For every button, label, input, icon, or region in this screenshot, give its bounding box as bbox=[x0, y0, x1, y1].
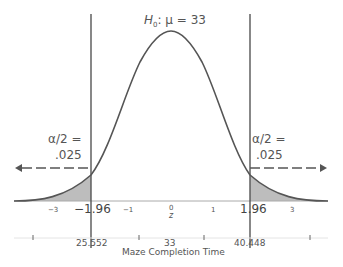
right-alpha-label: α/2 = bbox=[252, 133, 285, 145]
left-alpha-value: .025 bbox=[55, 149, 82, 161]
raw-tick-upper: 40.448 bbox=[234, 239, 266, 248]
raw-axis-label: Maze Completion Time bbox=[122, 248, 225, 257]
z-tick: 3 bbox=[290, 207, 294, 214]
normal-curve bbox=[14, 31, 328, 201]
title-h: H bbox=[144, 13, 153, 27]
right-arrowhead-icon bbox=[320, 164, 327, 172]
z-tick: −3 bbox=[48, 207, 58, 214]
left-alpha-label: α/2 = bbox=[48, 133, 81, 145]
raw-tick-lower: 25.552 bbox=[76, 239, 108, 248]
z-tick-critical-left: −1.96 bbox=[74, 203, 111, 215]
z-tick: −1 bbox=[123, 207, 133, 214]
z-tick-critical-right: 1.96 bbox=[240, 203, 267, 215]
z-axis-label: z bbox=[169, 212, 173, 220]
chart-title: H0: μ = 33 bbox=[144, 14, 206, 29]
left-arrowhead-icon bbox=[15, 164, 22, 172]
right-alpha-value: .025 bbox=[256, 149, 283, 161]
z-tick: 1 bbox=[211, 207, 215, 214]
title-rest: : μ = 33 bbox=[158, 13, 206, 27]
